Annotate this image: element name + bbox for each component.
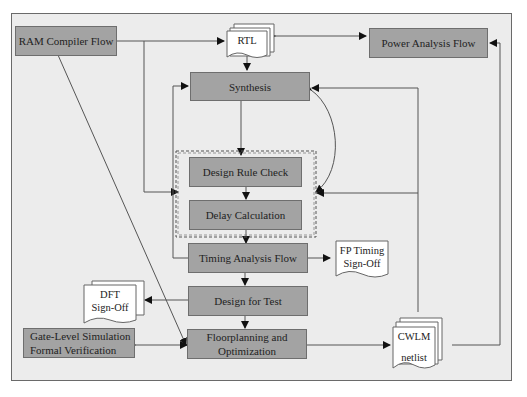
cwlm-netlist-document: CWLM netlist xyxy=(393,330,435,364)
design-rule-check-label: Design Rule Check xyxy=(203,165,289,179)
fp-timing-signoff-line2: Sign-Off xyxy=(343,257,380,270)
rtl-document: RTL xyxy=(227,34,267,47)
timing-analysis-flow-node: Timing Analysis Flow xyxy=(188,243,308,273)
design-for-test-label: Design for Test xyxy=(214,294,281,308)
gate-level-simulation-node: Gate-Level Simulation Formal Verificatio… xyxy=(23,328,135,358)
dft-signoff-line1: DFT xyxy=(100,288,120,301)
rtl-label: RTL xyxy=(237,35,256,46)
netlist-line2: netlist xyxy=(401,351,427,364)
gate-level-simulation-line1: Gate-Level Simulation xyxy=(30,329,131,343)
floorplanning-optimization-node: Floorplanning and Optimization xyxy=(187,329,307,359)
design-rule-check-node: Design Rule Check xyxy=(189,157,302,187)
synthesis-node: Synthesis xyxy=(190,72,310,101)
fp-timing-signoff-line1: FP Timing xyxy=(340,244,384,257)
ram-compiler-flow-label: RAM Compiler Flow xyxy=(19,34,114,48)
power-analysis-flow-label: Power Analysis Flow xyxy=(381,36,475,50)
formal-verification-line2: Formal Verification xyxy=(30,343,116,357)
delay-calculation-node: Delay Calculation xyxy=(189,200,302,230)
power-analysis-flow-node: Power Analysis Flow xyxy=(369,28,488,58)
floorplanning-line1: Floorplanning and xyxy=(207,330,288,344)
ram-compiler-flow-node: RAM Compiler Flow xyxy=(15,26,117,56)
synthesis-label: Synthesis xyxy=(229,80,271,94)
timing-analysis-flow-label: Timing Analysis Flow xyxy=(199,251,297,265)
design-for-test-node: Design for Test xyxy=(188,286,308,316)
delay-calculation-label: Delay Calculation xyxy=(206,208,286,222)
dft-signoff-line2: Sign-Off xyxy=(91,301,128,314)
optimization-line2: Optimization xyxy=(218,344,276,358)
dft-signoff-document: DFT Sign-Off xyxy=(84,286,136,316)
cwlm-line1: CWLM xyxy=(398,330,431,343)
fp-timing-signoff-document: FP Timing Sign-Off xyxy=(336,242,388,272)
